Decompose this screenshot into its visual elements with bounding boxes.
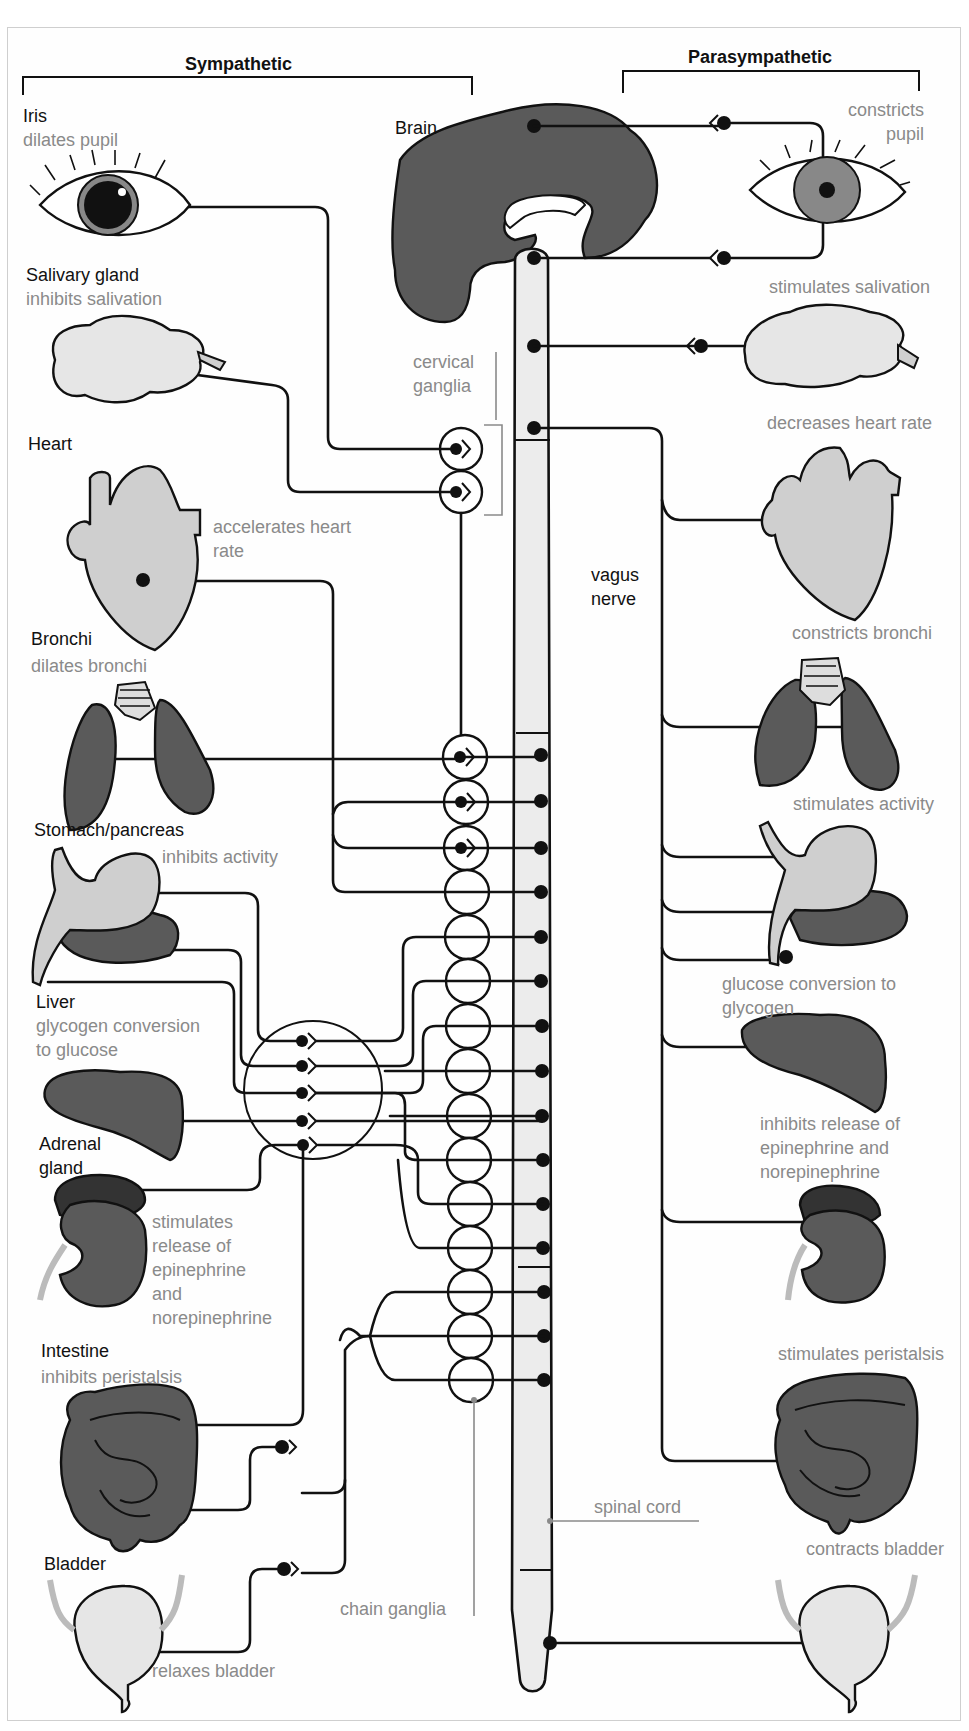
symp-bronchi-effect: dilates bronchi <box>31 654 147 678</box>
intestine-icon-parasympathetic <box>775 1374 917 1534</box>
para-stomach-effect: stimulates activity <box>793 792 934 816</box>
para-heart-effect: decreases heart rate <box>767 411 932 435</box>
symp-intestine-effect: inhibits peristalsis <box>41 1365 182 1389</box>
spinal-cord-label: spinal cord <box>594 1495 681 1519</box>
lungs-icon-sympathetic <box>65 682 213 830</box>
eye-icon-parasympathetic <box>750 140 910 223</box>
para-iris-effect-line2: pupil <box>886 122 924 146</box>
salivary-gland-icon-sympathetic <box>53 316 225 402</box>
para-iris-effect-line1: constricts <box>848 98 924 122</box>
symp-liver-effect-line1: glycogen conversion <box>36 1014 200 1038</box>
cervical-ganglia-label-line1: cervical <box>413 350 474 374</box>
symp-adrenal-effect-line3: epinephrine <box>152 1258 246 1282</box>
symp-adrenal-effect-line2: release of <box>152 1234 231 1258</box>
vagus-nerve-label-line1: vagus <box>591 563 639 587</box>
para-bladder-effect: contracts bladder <box>806 1537 944 1561</box>
symp-heart-effect-line1: accelerates heart <box>213 515 351 539</box>
spinal-cord <box>512 249 552 1692</box>
autonomic-nervous-system-diagram <box>0 0 969 1731</box>
adrenal-kidney-icon-parasympathetic <box>788 1186 885 1303</box>
chain-ganglia <box>443 735 493 1616</box>
symp-iris-organ: Iris <box>23 104 47 128</box>
chain-ganglia-label: chain ganglia <box>340 1597 446 1621</box>
sympathetic-bracket <box>23 77 472 95</box>
symp-heart-organ: Heart <box>28 432 72 456</box>
stomach-icon-parasympathetic <box>760 822 907 965</box>
symp-bronchi-organ: Bronchi <box>31 627 92 651</box>
brain-label: Brain <box>395 116 437 140</box>
cervical-ganglia-label-line2: ganglia <box>413 374 471 398</box>
symp-iris-effect: dilates pupil <box>23 128 118 152</box>
para-adrenal-effect-line2: epinephrine and <box>760 1136 889 1160</box>
symp-liver-effect-line2: to glucose <box>36 1038 118 1062</box>
symp-stomach-effect: inhibits activity <box>162 845 278 869</box>
adrenal-kidney-icon-sympathetic <box>40 1175 146 1306</box>
intestine-icon-sympathetic <box>61 1384 197 1551</box>
symp-salivary-organ: Salivary gland <box>26 263 139 287</box>
symp-adrenal-effect-line4: and <box>152 1282 182 1306</box>
heart-icon-parasympathetic <box>762 448 900 620</box>
salivary-gland-icon-parasympathetic <box>744 305 918 387</box>
lungs-icon-parasympathetic <box>755 658 898 790</box>
eye-icon-sympathetic <box>30 150 190 235</box>
symp-bladder-effect: relaxes bladder <box>152 1659 275 1683</box>
symp-adrenal-organ-line1: Adrenal <box>39 1132 101 1156</box>
symp-adrenal-organ-line2: gland <box>39 1156 83 1180</box>
para-intestine-effect: stimulates peristalsis <box>778 1342 944 1366</box>
para-salivary-effect: stimulates salivation <box>769 275 930 299</box>
symp-liver-organ: Liver <box>36 990 75 1014</box>
parasympathetic-bracket <box>623 71 919 93</box>
liver-icon-parasympathetic <box>742 1014 886 1112</box>
para-adrenal-effect-line1: inhibits release of <box>760 1112 900 1136</box>
para-liver-effect-line1: glucose conversion to <box>722 972 896 996</box>
sympathetic-header: Sympathetic <box>185 52 292 76</box>
bladder-icon-sympathetic <box>50 1575 182 1712</box>
symp-stomach-organ: Stomach/pancreas <box>34 818 184 842</box>
symp-adrenal-effect-line1: stimulates <box>152 1210 233 1234</box>
parasympathetic-header: Parasympathetic <box>688 45 832 69</box>
para-bronchi-effect: constricts bronchi <box>792 621 932 645</box>
stomach-icon-sympathetic <box>33 848 178 985</box>
vagus-nerve-label-line2: nerve <box>591 587 636 611</box>
symp-heart-effect-line2: rate <box>213 539 244 563</box>
para-adrenal-effect-line3: norepinephrine <box>760 1160 880 1184</box>
symp-intestine-organ: Intestine <box>41 1339 109 1363</box>
heart-icon-sympathetic <box>68 466 200 650</box>
symp-salivary-effect: inhibits salivation <box>26 287 162 311</box>
symp-bladder-organ: Bladder <box>44 1552 106 1576</box>
symp-adrenal-effect-line5: norepinephrine <box>152 1306 272 1330</box>
para-liver-effect-line2: glycogen <box>722 996 794 1020</box>
